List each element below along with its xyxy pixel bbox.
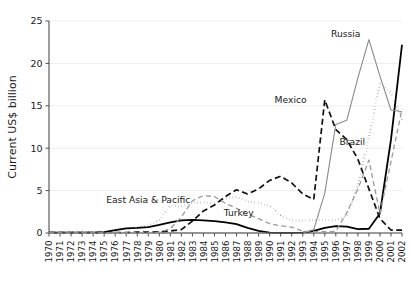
gridlines	[49, 21, 402, 191]
x-tick-label: 1986	[221, 241, 231, 263]
series-label-brazil: Brazil	[340, 136, 366, 147]
x-tick-label: 1993	[298, 241, 308, 263]
x-tick-label: 1974	[88, 241, 98, 263]
x-tick-label: 1989	[254, 241, 264, 263]
series-label-turkey: Turkey	[223, 207, 254, 218]
x-tick-label: 1997	[342, 241, 352, 263]
x-tick-label: 1999	[364, 241, 374, 263]
series-label-east-asia-pacific: East Asia & Pacific	[106, 194, 190, 205]
series-annotations: East Asia & PacificTurkeyMexicoRussiaBra…	[106, 28, 365, 218]
x-tick-label: 1996	[331, 241, 341, 263]
y-tick-label: 5	[36, 185, 42, 196]
x-tick-label: 1971	[55, 241, 65, 263]
x-tick-label: 1978	[133, 241, 143, 263]
y-tick-label: 10	[30, 143, 42, 154]
chart-container: 0510152025 19701971197219731974197519761…	[0, 0, 411, 284]
x-tick-label: 1995	[320, 241, 330, 263]
x-tick-label: 1973	[77, 241, 87, 263]
line-chart: 0510152025 19701971197219731974197519761…	[0, 0, 411, 284]
x-tick-label: 1984	[199, 241, 209, 263]
y-tick-label: 0	[36, 227, 42, 238]
x-tick-label: 1983	[188, 241, 198, 263]
x-tick-label: 2001	[386, 241, 396, 263]
x-tick-label: 1991	[276, 241, 286, 263]
y-tick-label: 25	[30, 15, 42, 26]
x-tick-label: 1994	[309, 241, 319, 263]
x-tick-label: 1976	[110, 241, 120, 263]
x-tick-label: 1998	[353, 241, 363, 263]
series-label-russia: Russia	[331, 28, 361, 39]
y-tick-label: 15	[30, 100, 42, 111]
x-tick-label: 2000	[375, 241, 385, 263]
x-tick-label: 1990	[265, 241, 275, 263]
x-tick-label: 1985	[210, 241, 220, 263]
axes	[49, 21, 402, 233]
series-label-mexico: Mexico	[275, 94, 307, 105]
x-tick-label: 1992	[287, 241, 297, 263]
x-tick-label: 1972	[66, 241, 76, 263]
x-tick-label: 1987	[232, 241, 242, 263]
x-axis-ticks: 1970197119721973197419751976197719781979…	[44, 233, 407, 262]
x-tick-label: 1970	[44, 241, 54, 263]
x-tick-label: 1979	[144, 241, 154, 263]
y-tick-label: 20	[30, 58, 42, 69]
x-tick-label: 1975	[99, 241, 109, 263]
x-tick-label: 1981	[166, 241, 176, 263]
x-tick-label: 1988	[243, 241, 253, 263]
y-axis-ticks: 0510152025	[30, 15, 49, 238]
x-tick-label: 1982	[177, 241, 187, 263]
x-tick-label: 1977	[122, 241, 132, 263]
y-axis-title: Current US$ billion	[6, 75, 19, 178]
x-tick-label: 1980	[155, 241, 165, 263]
x-tick-label: 2002	[397, 241, 407, 263]
